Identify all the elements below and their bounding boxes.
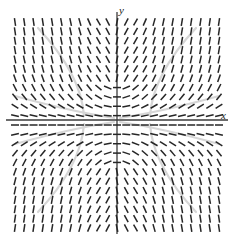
direction-field-canvas bbox=[0, 0, 234, 240]
slope-dashes bbox=[11, 18, 223, 232]
y-axis-label: y bbox=[119, 5, 124, 16]
slope-field-figure: y x bbox=[0, 0, 234, 240]
x-axis-label: x bbox=[221, 110, 226, 121]
